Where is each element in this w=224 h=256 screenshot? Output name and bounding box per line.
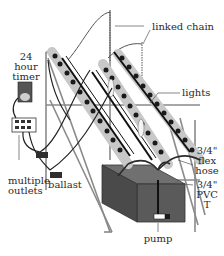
lights-label: lights	[182, 88, 210, 98]
outlets-label: multiple outlets	[8, 176, 40, 196]
pump-label: pump	[140, 234, 176, 244]
diagram-canvas	[0, 0, 224, 256]
outlet-strip	[12, 118, 36, 132]
linked-chain-label: linked chain	[152, 22, 214, 32]
outlets-label-line2: outlets	[8, 186, 40, 196]
timer-label-line3: timer	[12, 72, 40, 82]
timer-label: 24 hour timer	[12, 52, 40, 82]
hydroponic-diagram: 24 hour timer multiple outlets ballast l…	[0, 0, 224, 256]
pvc-t-label-line3: T	[193, 200, 221, 210]
flex-hose-label-line3: hose	[193, 166, 221, 176]
pvc-t-label: 3/4" PVC T	[193, 180, 221, 210]
reservoir	[102, 165, 185, 222]
timer	[18, 82, 32, 102]
flex-hose-label: 3/4" flex hose	[193, 146, 221, 176]
ballast-label: ballast	[48, 180, 82, 190]
pump-body	[154, 214, 165, 219]
